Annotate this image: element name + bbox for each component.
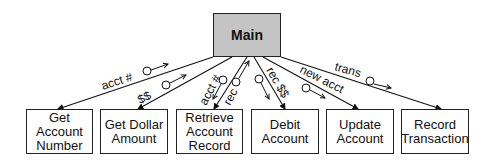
module-get-account-number: Get Account Number (26, 109, 93, 154)
call-line-get-account-number (58, 57, 213, 109)
couple-label-dollars: $$ (135, 88, 153, 107)
module-get-dollar-amount: Get Dollar Amount (100, 109, 168, 154)
module-label: Retrieve Account Record (185, 111, 233, 153)
main-module-label: Main (231, 28, 263, 42)
couple-label-rec-dollars: rec $$ (263, 65, 292, 101)
module-debit-account: Debit Account (251, 109, 319, 154)
module-record-transaction: Record Transaction (401, 109, 469, 154)
couple-label-trans: trans (333, 59, 363, 80)
main-module: Main (213, 13, 281, 57)
module-label: Get Account Number (36, 111, 83, 153)
module-retrieve-account-record: Retrieve Account Record (176, 109, 243, 154)
couple-label-rec: rec (220, 86, 240, 107)
couple-label-acct-down: acct # (196, 72, 224, 107)
module-update-account: Update Account (326, 109, 394, 154)
module-label: Record Transaction (401, 118, 468, 146)
module-label: Debit Account (262, 118, 309, 146)
module-label: Get Dollar Amount (105, 118, 164, 146)
module-label: Update Account (337, 118, 384, 146)
